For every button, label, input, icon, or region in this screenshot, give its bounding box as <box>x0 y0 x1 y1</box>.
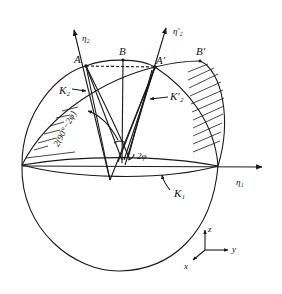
sheared-arc <box>22 61 200 165</box>
twinning-sphere-diagram <box>0 0 282 294</box>
label-angle-inner: 2φ <box>137 152 146 161</box>
label-eta2: η₂ <box>82 34 90 43</box>
angle-pointer <box>88 111 118 140</box>
hatching-right <box>188 64 224 152</box>
k1-pointer <box>162 175 170 190</box>
label-axis-z: z <box>208 225 212 234</box>
right-arc-down <box>155 67 218 166</box>
label-k1: K₁ <box>174 188 185 199</box>
a-aprime-dashed <box>86 66 155 67</box>
label-b-prime: B′ <box>196 46 205 57</box>
k2p-pointer <box>150 97 168 99</box>
label-k2: K₂ <box>59 85 70 96</box>
label-b: B <box>119 46 126 57</box>
label-k2-prime: K′₂ <box>170 91 184 102</box>
label-axis-x: x <box>184 262 188 271</box>
sphere-outline <box>22 165 218 271</box>
k1-ellipse-top <box>22 158 218 166</box>
label-eta1: η₁ <box>236 178 244 187</box>
label-a-prime: A′ <box>156 55 165 66</box>
k2-pointer <box>72 89 86 91</box>
label-a: A <box>74 54 81 65</box>
label-eta2-prime: η′₂ <box>173 27 183 36</box>
eta1-axis <box>22 166 262 167</box>
label-axis-y: y <box>232 245 236 254</box>
